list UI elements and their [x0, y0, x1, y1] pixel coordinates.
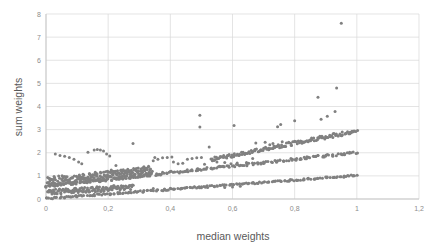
- svg-text:1: 1: [355, 205, 359, 212]
- svg-text:6: 6: [37, 57, 41, 64]
- scatter-chart: 00,20,40,60,811,2 012345678 median weigh…: [0, 0, 443, 249]
- svg-text:0,8: 0,8: [290, 205, 300, 212]
- svg-text:8: 8: [37, 11, 41, 18]
- svg-text:3: 3: [37, 126, 41, 133]
- y-axis-title: sum weights: [12, 78, 24, 136]
- svg-text:7: 7: [37, 34, 41, 41]
- svg-text:0: 0: [37, 196, 41, 203]
- svg-text:0,2: 0,2: [103, 205, 113, 212]
- svg-text:4: 4: [37, 103, 41, 110]
- svg-text:0: 0: [44, 205, 48, 212]
- svg-text:0,4: 0,4: [165, 205, 175, 212]
- x-axis-title: median weights: [197, 230, 270, 242]
- data-points: [44, 22, 359, 200]
- y-axis-tick-labels: 012345678: [37, 11, 41, 203]
- x-axis-tick-labels: 00,20,40,60,811,2: [44, 205, 424, 212]
- svg-text:1,2: 1,2: [414, 205, 424, 212]
- chart-canvas: 00,20,40,60,811,2 012345678 median weigh…: [0, 0, 443, 249]
- svg-text:2: 2: [37, 149, 41, 156]
- svg-text:0,6: 0,6: [228, 205, 238, 212]
- svg-text:1: 1: [37, 172, 41, 179]
- svg-text:5: 5: [37, 80, 41, 87]
